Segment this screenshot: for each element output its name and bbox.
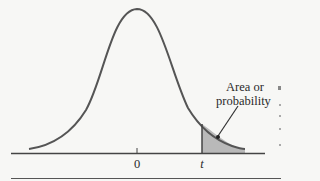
- annotation-arrow: [218, 106, 238, 136]
- edge-mark: [279, 144, 281, 146]
- arrow-head-dot: [216, 135, 220, 139]
- tick-label-zero: 0: [131, 157, 143, 171]
- annotation-label-line1: Area or: [218, 80, 281, 94]
- edge-mark: [279, 115, 281, 117]
- edge-mark: [279, 128, 281, 130]
- density-curve: [29, 9, 245, 149]
- tick-label-t: t: [196, 157, 208, 171]
- annotation-label-line2: probability: [216, 94, 280, 108]
